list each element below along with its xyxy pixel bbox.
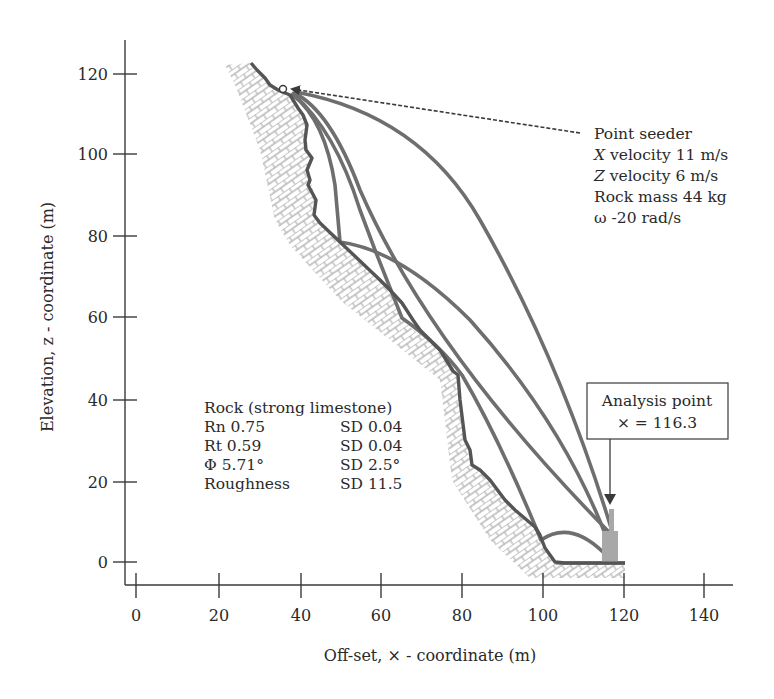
- y-tick-label: 0: [98, 553, 108, 572]
- analysis-bar: [602, 531, 618, 562]
- x-tick-label: 40: [291, 606, 311, 625]
- x-tick-label: 140: [689, 606, 720, 625]
- analysis-point-annotation: Analysis point × = 116.3: [587, 383, 728, 505]
- analysis-bar-thin: [609, 509, 614, 532]
- rock-param: Φ 5.71°: [204, 456, 264, 474]
- x-tick-label: 80: [452, 606, 472, 625]
- x-tick-labels: 0 20 40 60 80 100 120 140: [131, 606, 719, 625]
- seeder-x-velocity: X velocity 11 m/s: [593, 146, 728, 164]
- x-tick-label: 100: [528, 606, 559, 625]
- rock-sd: SD 11.5: [340, 475, 402, 493]
- rock-param: Rn 0.75: [204, 418, 265, 436]
- rock-sd: SD 0.04: [340, 437, 403, 455]
- y-tick-label: 40: [88, 391, 108, 410]
- y-tick-label: 60: [88, 308, 108, 327]
- rock-sd: SD 2.5°: [340, 456, 400, 474]
- x-tick-label: 0: [131, 606, 141, 625]
- y-tick-label: 100: [77, 145, 108, 164]
- x-tick-label: 60: [371, 606, 391, 625]
- rockfall-trajectory-chart: 120 100 80 60 40 20 0 0 20 40 60 80 100 …: [0, 0, 774, 699]
- seeder-annotation: Point seeder X velocity 11 m/s Z velocit…: [593, 125, 728, 227]
- arrow-down-icon: [604, 494, 616, 505]
- rock-param: Roughness: [204, 475, 290, 493]
- rock-sd: SD 0.04: [340, 418, 403, 436]
- analysis-point-title: Analysis point: [601, 392, 713, 410]
- analysis-point-value: × = 116.3: [617, 414, 697, 432]
- seeder-leader-line: [292, 89, 580, 133]
- x-axis-label: Off-set, × - coordinate (m): [324, 646, 536, 665]
- rock-properties: Rock (strong limestone) Rn 0.75 SD 0.04 …: [204, 399, 403, 493]
- y-tick-label: 120: [77, 65, 108, 84]
- seeder-rock-mass: Rock mass 44 kg: [594, 188, 727, 206]
- point-seeder-marker: [280, 86, 287, 93]
- seeder-z-velocity: Z velocity 6 m/s: [593, 167, 718, 185]
- y-tick-label: 80: [88, 227, 108, 246]
- y-axis-label: Elevation, z - coordinate (m): [38, 202, 57, 432]
- seeder-title: Point seeder: [594, 125, 693, 143]
- rock-param: Rt 0.59: [204, 437, 261, 455]
- y-tick-label: 20: [88, 473, 108, 492]
- y-tick-labels: 120 100 80 60 40 20 0: [77, 65, 108, 572]
- x-tick-label: 20: [209, 606, 229, 625]
- seeder-omega: ω -20 rad/s: [594, 209, 681, 227]
- rock-title: Rock (strong limestone): [204, 399, 392, 417]
- rock-mass-hatch: [225, 63, 625, 578]
- x-tick-label: 120: [609, 606, 640, 625]
